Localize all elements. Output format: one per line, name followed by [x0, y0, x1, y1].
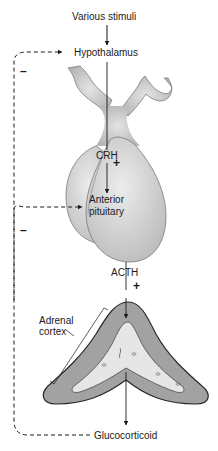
- various-stimuli-label: Various stimuli: [72, 11, 136, 22]
- hypothalamus-label: Hypothalamus: [74, 47, 138, 58]
- adrenal-cortex-label-line2: cortex: [39, 326, 66, 337]
- hypothalamus-feedback-minus-sign: –: [20, 65, 27, 77]
- glucocorticoid-label: Glucocorticoid: [94, 430, 157, 441]
- crh-plus-sign: +: [113, 157, 120, 169]
- acth-plus-sign: +: [133, 280, 140, 292]
- acth-label: ACTH: [111, 267, 138, 278]
- pituitary-feedback-minus-sign: –: [20, 224, 27, 236]
- anterior-pituitary-label-line1: Anterior: [89, 194, 124, 205]
- diagram-canvas: [0, 0, 218, 451]
- anterior-pituitary-label-line2: pituitary: [89, 206, 124, 217]
- adrenal-cortex-label-line1: Adrenal: [39, 315, 73, 326]
